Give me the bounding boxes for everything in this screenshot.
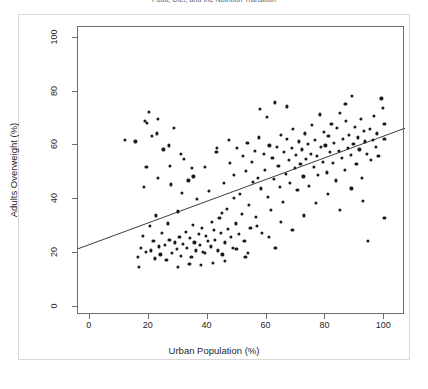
data-point <box>296 188 299 191</box>
data-point <box>134 140 137 143</box>
data-point <box>247 203 250 206</box>
data-point <box>178 235 181 238</box>
data-point <box>228 161 231 164</box>
data-point <box>362 129 365 132</box>
data-point <box>192 175 195 178</box>
data-point <box>181 242 184 245</box>
data-point <box>145 165 148 168</box>
data-point <box>325 171 328 174</box>
data-point <box>275 145 278 148</box>
data-point <box>256 225 259 228</box>
data-point <box>235 247 238 250</box>
data-point <box>171 251 174 254</box>
data-point <box>300 148 303 151</box>
data-point <box>278 186 281 189</box>
data-point <box>272 177 275 180</box>
data-point <box>204 251 207 254</box>
data-point <box>309 152 312 155</box>
data-point <box>157 245 160 248</box>
data-point <box>342 137 345 140</box>
y-tick-label: 100 <box>40 31 68 43</box>
data-point <box>347 133 350 136</box>
data-point <box>139 246 142 249</box>
data-point <box>317 173 320 176</box>
data-point <box>271 156 274 159</box>
data-point <box>227 227 230 230</box>
data-point <box>199 243 202 246</box>
data-point <box>249 226 252 229</box>
data-point <box>240 212 243 215</box>
data-point <box>350 187 353 190</box>
data-point <box>182 157 185 160</box>
data-point <box>144 250 147 253</box>
data-point <box>277 164 280 167</box>
data-point <box>234 222 237 225</box>
data-point <box>314 138 317 141</box>
chart-title: Food, Diet, and the Nutrition Transition <box>0 0 428 3</box>
data-point <box>297 140 300 143</box>
data-point <box>291 229 294 232</box>
data-point <box>149 225 152 228</box>
data-point <box>190 256 193 259</box>
data-point <box>367 239 370 242</box>
data-point <box>256 176 259 179</box>
data-point <box>283 151 286 154</box>
data-point <box>269 208 272 211</box>
data-point <box>255 215 258 218</box>
data-point <box>191 167 194 170</box>
data-point <box>188 262 191 265</box>
data-point <box>227 138 230 141</box>
x-tick-label: 40 <box>192 319 222 331</box>
data-point <box>147 110 150 113</box>
data-point <box>331 161 334 164</box>
data-point <box>167 144 170 147</box>
data-point <box>191 223 194 226</box>
data-point <box>187 179 190 182</box>
data-point <box>163 243 166 246</box>
data-point <box>168 164 171 167</box>
data-point <box>361 176 364 179</box>
data-point <box>381 106 384 109</box>
data-point <box>327 134 330 137</box>
data-point <box>166 222 169 225</box>
data-point <box>152 239 155 242</box>
data-point <box>377 155 380 158</box>
data-point <box>188 237 191 240</box>
data-point <box>368 128 371 131</box>
data-point <box>279 221 282 224</box>
data-point <box>371 138 374 141</box>
data-point <box>318 113 321 116</box>
data-point <box>205 234 208 237</box>
plot-area <box>77 26 404 314</box>
data-point <box>334 179 337 182</box>
x-axis-title: Urban Population (%) <box>0 345 428 356</box>
data-point <box>212 229 215 232</box>
data-point <box>350 94 353 97</box>
data-point <box>258 136 261 139</box>
data-point <box>259 187 262 190</box>
data-point <box>215 147 218 150</box>
data-point <box>223 260 226 263</box>
data-point <box>241 155 244 158</box>
data-point <box>333 141 336 144</box>
data-point <box>174 241 177 244</box>
data-point <box>149 249 152 252</box>
data-point <box>225 207 228 210</box>
data-point <box>219 231 222 234</box>
x-tick-label: 100 <box>368 319 398 331</box>
data-point <box>142 186 145 189</box>
data-point <box>151 134 154 137</box>
y-tick-label: 40 <box>40 192 68 204</box>
data-point <box>321 160 324 163</box>
data-point <box>364 140 367 143</box>
data-point <box>362 199 365 202</box>
data-point <box>175 247 178 250</box>
data-point <box>303 214 306 217</box>
data-point <box>268 144 271 147</box>
data-point <box>185 246 188 249</box>
data-point <box>303 132 306 135</box>
data-point <box>232 196 235 199</box>
data-point <box>267 235 270 238</box>
data-point <box>208 190 211 193</box>
data-point <box>343 168 346 171</box>
